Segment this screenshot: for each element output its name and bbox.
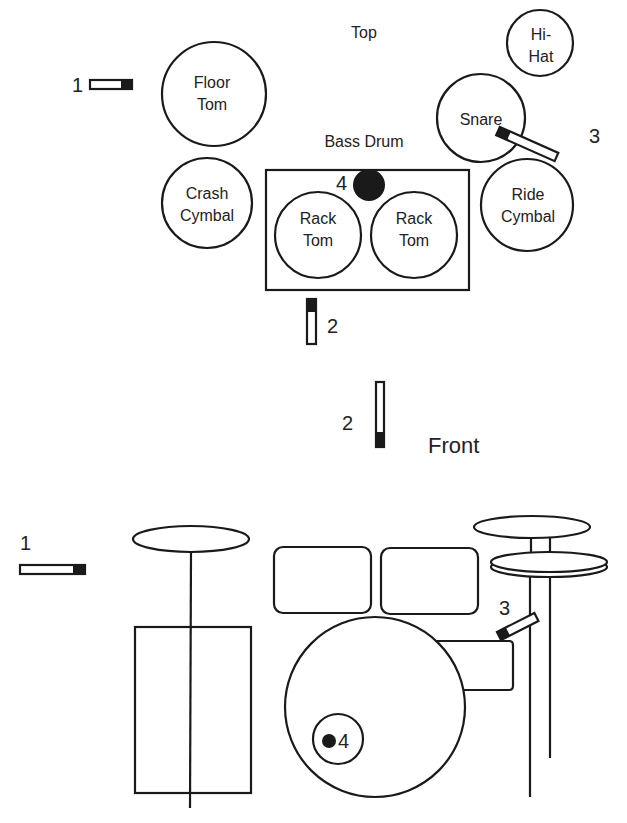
ride-cymbal: Ride Cymbal bbox=[481, 159, 573, 251]
mic-4-top-number: 4 bbox=[336, 172, 347, 194]
mic-4-top: 4 bbox=[336, 169, 385, 201]
mic-3-top bbox=[496, 127, 558, 161]
hi-hat: Hi- Hat bbox=[507, 10, 573, 76]
snare-label: Snare bbox=[460, 111, 503, 128]
front-view: 2 Front 1 4 bbox=[20, 382, 607, 808]
mic-2-top-number: 2 bbox=[327, 315, 338, 337]
mic-1-front-capsule-icon bbox=[73, 565, 85, 574]
mic-4-front-icon bbox=[322, 734, 336, 748]
crash-cymbal: Crash Cymbal bbox=[162, 158, 252, 248]
rack-tom-left-line1: Rack bbox=[300, 210, 337, 227]
mic-3-top-number: 3 bbox=[589, 125, 600, 147]
mic-2-front-capsule-icon bbox=[376, 432, 384, 447]
crash-and-floor-tom-front bbox=[133, 526, 251, 808]
top-view: Top Bass Drum Floor Tom Crash Cymbal Rac… bbox=[72, 10, 600, 344]
floor-tom: Floor Tom bbox=[162, 42, 266, 146]
front-view-title: Front bbox=[428, 433, 479, 458]
ride-label-line2: Cymbal bbox=[501, 208, 555, 225]
crash-label-line2: Cymbal bbox=[180, 207, 234, 224]
rack-tom-left-front bbox=[274, 547, 371, 613]
hi-hat-top-cymbal bbox=[474, 516, 590, 538]
floor-tom-front bbox=[135, 627, 251, 793]
rack-tom-right-line2: Tom bbox=[399, 232, 429, 249]
bass-drum-label: Bass Drum bbox=[324, 133, 403, 150]
crash-cymbal-front bbox=[133, 526, 249, 552]
ride-label-line1: Ride bbox=[512, 186, 545, 203]
snare: Snare bbox=[437, 74, 525, 162]
rack-tom-right-line1: Rack bbox=[396, 210, 433, 227]
mic-1-top: 1 bbox=[72, 74, 133, 96]
crash-stand bbox=[190, 552, 191, 808]
mic-2-front-number: 2 bbox=[342, 412, 353, 434]
rack-tom-left-line2: Tom bbox=[303, 232, 333, 249]
mic-1-top-number: 1 bbox=[72, 74, 83, 96]
rack-tom-left: Rack Tom bbox=[275, 192, 361, 278]
floor-tom-label-line2: Tom bbox=[197, 96, 227, 113]
hi-hat-line1: Hi- bbox=[531, 26, 551, 43]
bass-drum-front bbox=[285, 617, 465, 797]
mic-4-top-icon bbox=[353, 169, 385, 201]
mic-2-top-capsule-icon bbox=[307, 299, 316, 312]
mic-3-front-number: 3 bbox=[499, 597, 510, 619]
hi-hat-line2: Hat bbox=[529, 48, 554, 65]
mic-2-front: 2 bbox=[342, 382, 384, 447]
floor-tom-label-line1: Floor bbox=[194, 74, 231, 91]
ride-cymbal-front bbox=[491, 552, 607, 572]
drum-mic-placement-diagram: Top Bass Drum Floor Tom Crash Cymbal Rac… bbox=[0, 0, 627, 823]
rack-tom-right-front bbox=[381, 548, 478, 614]
mic-4-front-number: 4 bbox=[338, 730, 349, 752]
mic-1-front-number: 1 bbox=[20, 532, 31, 554]
top-view-title: Top bbox=[351, 24, 377, 41]
crash-label-line1: Crash bbox=[186, 185, 229, 202]
rack-tom-right: Rack Tom bbox=[371, 192, 457, 278]
mic-1-front: 1 bbox=[20, 532, 85, 574]
mic-1-top-capsule-icon bbox=[121, 80, 133, 89]
mic-2-top: 2 bbox=[307, 299, 338, 344]
